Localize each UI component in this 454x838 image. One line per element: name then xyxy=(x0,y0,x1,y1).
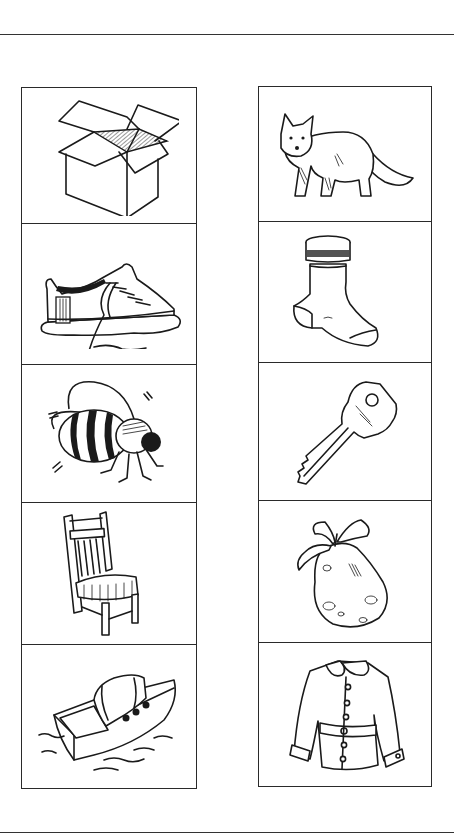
picture-cell-fox: fox xyxy=(259,87,431,222)
picture-cell-chair: chair xyxy=(22,503,196,645)
coat-icon xyxy=(280,653,410,778)
picture-cell-boat: boat xyxy=(22,645,196,790)
sneaker-icon xyxy=(34,239,184,349)
picture-cell-coat: coat xyxy=(259,643,431,788)
key-icon xyxy=(280,372,410,492)
open-box-icon xyxy=(39,96,179,216)
top-rule xyxy=(0,34,454,35)
fox-icon xyxy=(273,104,418,204)
chair-icon xyxy=(54,511,164,636)
sock-icon xyxy=(290,232,400,352)
picture-cell-pear: pear xyxy=(259,501,431,643)
left-picture-column: box shoe xyxy=(21,87,197,789)
pear-icon xyxy=(285,512,405,632)
bee-icon xyxy=(39,374,179,494)
boat-icon xyxy=(34,660,184,775)
right-picture-column: fox sock key xyxy=(258,86,432,787)
picture-cell-bee: bee xyxy=(22,365,196,503)
bottom-rule xyxy=(0,832,454,833)
picture-cell-shoe: shoe xyxy=(22,224,196,365)
picture-cell-box: box xyxy=(22,88,196,224)
picture-cell-sock: sock xyxy=(259,222,431,363)
picture-cell-key: key xyxy=(259,363,431,501)
